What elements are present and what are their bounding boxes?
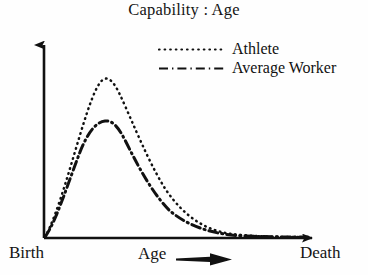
legend-label-average-worker: Average Worker [232, 59, 336, 77]
series-line-average-worker [45, 121, 308, 237]
legend-swatch-dotted-icon [158, 48, 226, 51]
capability-age-chart: Capability : Age Athlete [0, 0, 368, 275]
legend-label-athlete: Athlete [232, 40, 279, 58]
legend-item-athlete: Athlete [158, 40, 358, 59]
series-line-athlete [45, 79, 306, 237]
age-direction-arrow-icon [176, 253, 232, 265]
chart-legend: Athlete Average Worker [158, 40, 358, 78]
x-axis-label-age: Age [138, 245, 166, 262]
x-axis-label-death: Death [300, 244, 341, 261]
legend-swatch-dash-dot-icon [158, 67, 226, 70]
x-axis-label-birth: Birth [9, 244, 44, 261]
legend-item-average-worker: Average Worker [158, 59, 358, 78]
